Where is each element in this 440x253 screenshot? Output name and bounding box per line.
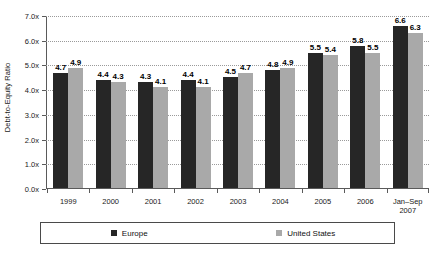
y-tick-mark bbox=[42, 41, 46, 42]
y-tick-mark bbox=[42, 115, 46, 116]
x-tick-mark bbox=[259, 189, 260, 193]
bar-value-label: 4.7 bbox=[240, 63, 251, 72]
bar-united-states: 4.7 bbox=[238, 73, 253, 188]
bar-europe: 6.6 bbox=[393, 26, 408, 188]
y-axis-title-text: Debt-to-Equity Ratio bbox=[4, 63, 13, 133]
bar-value-label: 5.4 bbox=[325, 45, 336, 54]
bar-value-label: 4.7 bbox=[55, 63, 66, 72]
x-axis-label: 2005 bbox=[302, 189, 344, 219]
bar-united-states: 4.3 bbox=[111, 82, 126, 188]
bar-europe: 4.4 bbox=[96, 80, 111, 188]
x-axis-label-line: 2004 bbox=[259, 198, 301, 207]
bar-united-states: 5.4 bbox=[323, 55, 338, 188]
bar-value-label: 4.3 bbox=[140, 72, 151, 81]
bar-united-states: 4.1 bbox=[196, 87, 211, 188]
bar-value-label: 4.3 bbox=[113, 72, 124, 81]
bar-group: 4.34.1 bbox=[132, 16, 174, 188]
x-tick-mark bbox=[89, 189, 90, 193]
bar-value-label: 5.5 bbox=[310, 43, 321, 52]
x-axis-label-line: 2007 bbox=[387, 207, 429, 216]
bar-value-label: 4.8 bbox=[267, 60, 278, 69]
x-axis-label: 2006 bbox=[344, 189, 386, 219]
x-axis-label: 2004 bbox=[259, 189, 301, 219]
bar-value-label: 4.9 bbox=[70, 58, 81, 67]
x-tick-mark-end bbox=[428, 189, 429, 193]
x-axis-label-line: 2002 bbox=[174, 198, 216, 207]
x-axis-label: 2003 bbox=[217, 189, 259, 219]
bar-united-states: 4.9 bbox=[280, 68, 295, 188]
x-tick-mark bbox=[344, 189, 345, 193]
bar-united-states: 6.3 bbox=[408, 33, 423, 188]
y-tick-mark bbox=[42, 16, 46, 17]
chart-container: Debt-to-Equity Ratio 0.0x1.0x2.0x3.0x4.0… bbox=[0, 0, 440, 253]
x-tick-mark bbox=[217, 189, 218, 193]
legend-swatch-united-states-icon bbox=[276, 230, 282, 236]
y-tick-mark bbox=[42, 140, 46, 141]
bar-value-label: 4.4 bbox=[182, 70, 193, 79]
y-tick-label: 1.0x bbox=[25, 160, 39, 169]
y-tick-mark bbox=[42, 164, 46, 165]
y-tick-mark bbox=[42, 90, 46, 91]
y-tick-mark bbox=[42, 65, 46, 66]
y-tick-mark bbox=[42, 189, 46, 190]
y-tick-label: 5.0x bbox=[25, 61, 39, 70]
legend-item-united-states: United States bbox=[218, 229, 395, 238]
bar-group: 4.74.9 bbox=[47, 16, 89, 188]
bar-group: 4.44.3 bbox=[89, 16, 131, 188]
bar-europe: 4.8 bbox=[265, 70, 280, 188]
chart-legend: Europe United States bbox=[40, 222, 395, 244]
y-tick-label: 6.0x bbox=[25, 36, 39, 45]
bar-value-label: 4.5 bbox=[225, 67, 236, 76]
bar-value-label: 5.8 bbox=[352, 36, 363, 45]
x-tick-mark bbox=[174, 189, 175, 193]
x-tick-mark bbox=[387, 189, 388, 193]
bar-group: 4.44.1 bbox=[174, 16, 216, 188]
x-axis-label-line: 2005 bbox=[302, 198, 344, 207]
bar-united-states: 5.5 bbox=[365, 53, 380, 188]
bar-value-label: 5.5 bbox=[367, 43, 378, 52]
x-axis-label: 2002 bbox=[174, 189, 216, 219]
bar-united-states: 4.9 bbox=[68, 68, 83, 188]
bar-value-label: 6.6 bbox=[395, 16, 406, 25]
bar-groups: 4.74.94.44.34.34.14.44.14.54.74.84.95.55… bbox=[47, 16, 429, 188]
bar-europe: 4.7 bbox=[53, 73, 68, 188]
x-axis-label: 1999 bbox=[47, 189, 89, 219]
x-axis-label: 2001 bbox=[132, 189, 174, 219]
plot-area: 0.0x1.0x2.0x3.0x4.0x5.0x6.0x7.0x 4.74.94… bbox=[46, 16, 429, 189]
legend-swatch-europe-icon bbox=[111, 230, 117, 236]
bar-group: 5.85.5 bbox=[344, 16, 386, 188]
x-tick-mark bbox=[302, 189, 303, 193]
bar-group: 6.66.3 bbox=[387, 16, 429, 188]
bar-europe: 5.5 bbox=[308, 53, 323, 188]
x-tick-mark bbox=[132, 189, 133, 193]
bar-value-label: 6.3 bbox=[410, 23, 421, 32]
x-axis-label-line: 1999 bbox=[47, 198, 89, 207]
bar-value-label: 4.1 bbox=[197, 77, 208, 86]
bar-value-label: 4.4 bbox=[98, 70, 109, 79]
x-axis-label-line: 2006 bbox=[344, 198, 386, 207]
bar-europe: 4.4 bbox=[181, 80, 196, 188]
x-axis-labels: 19992000200120022003200420052006Jan–Sep2… bbox=[47, 189, 429, 219]
y-tick-label: 0.0x bbox=[25, 185, 39, 194]
y-tick-label: 4.0x bbox=[25, 86, 39, 95]
x-axis-label-line: 2003 bbox=[217, 198, 259, 207]
x-axis-label: Jan–Sep2007 bbox=[387, 189, 429, 219]
x-axis-label-line: 2001 bbox=[132, 198, 174, 207]
y-axis-title: Debt-to-Equity Ratio bbox=[0, 0, 16, 195]
x-tick-mark bbox=[47, 189, 48, 193]
y-tick-label: 7.0x bbox=[25, 12, 39, 21]
bar-value-label: 4.9 bbox=[282, 58, 293, 67]
x-axis-label-line: 2000 bbox=[89, 198, 131, 207]
bar-value-label: 4.1 bbox=[155, 77, 166, 86]
legend-label-europe: Europe bbox=[122, 229, 148, 238]
bar-europe: 4.5 bbox=[223, 77, 238, 188]
y-tick-label: 3.0x bbox=[25, 110, 39, 119]
x-axis-label: 2000 bbox=[89, 189, 131, 219]
y-tick-label: 2.0x bbox=[25, 135, 39, 144]
legend-item-europe: Europe bbox=[41, 229, 218, 238]
bar-united-states: 4.1 bbox=[153, 87, 168, 188]
bar-group: 4.54.7 bbox=[217, 16, 259, 188]
bar-group: 4.84.9 bbox=[259, 16, 301, 188]
legend-label-united-states: United States bbox=[287, 229, 335, 238]
bar-europe: 4.3 bbox=[138, 82, 153, 188]
